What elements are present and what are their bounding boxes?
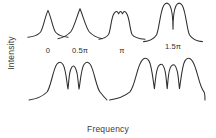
- panel-phase-2.5pi: 2.5π: [27, 57, 109, 105]
- panel-phase-1.5pi: 1.5π: [142, 0, 204, 46]
- curve-phase-1.5pi: [142, 0, 204, 44]
- curve-phase-3.5pi: [107, 53, 207, 102]
- x-axis-label: Frequency: [0, 124, 216, 134]
- panel-label-phase-1.5pi: 1.5π: [142, 42, 204, 51]
- panel-phase-0.5pi: 0.5π: [57, 4, 103, 46]
- panel-label-phase-0.5pi: 0.5π: [57, 46, 103, 55]
- curve-phase-0.5pi: [57, 4, 103, 42]
- y-axis-label: Intensity: [6, 23, 16, 83]
- panel-phase-3.5pi: 3.5π: [107, 53, 207, 105]
- panel-phase-pi: π: [98, 4, 146, 46]
- curve-phase-2.5pi: [27, 57, 109, 102]
- curve-phase-pi: [98, 4, 146, 42]
- spectral-lineshape-figure: Intensity 0 0.5π π 1.5π 2.5π: [0, 0, 216, 138]
